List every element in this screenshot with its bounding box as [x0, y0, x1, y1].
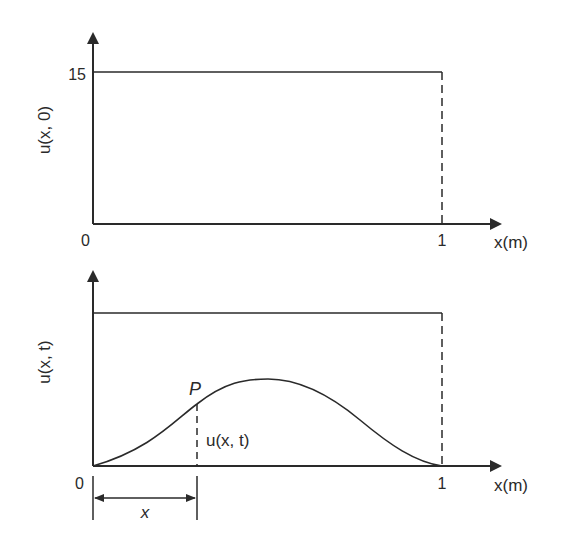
top-x-tick-1: 1: [438, 232, 447, 249]
top-y-axis-label: u(x, 0): [35, 106, 54, 154]
top-plot: 15 0 1 x(m) u(x, 0): [35, 34, 528, 252]
point-p-label: P: [189, 379, 201, 399]
top-origin-label: 0: [81, 232, 90, 249]
bottom-origin-label: 0: [75, 475, 84, 492]
bottom-y-axis-label: u(x, t): [35, 340, 54, 383]
x-dimension-indicator: x: [93, 476, 197, 522]
top-x-axis-label: x(m): [494, 233, 528, 252]
bottom-plot: P u(x, t) 0 1 x(m) u(x, t) x: [35, 272, 528, 522]
temperature-profile-curve: [93, 379, 442, 466]
bottom-x-axis-label: x(m): [494, 476, 528, 495]
bottom-x-tick-1: 1: [438, 475, 447, 492]
dimension-x-label: x: [140, 503, 150, 522]
point-p-value-label: u(x, t): [206, 431, 249, 450]
diagram-canvas: 15 0 1 x(m) u(x, 0) P u(x, t) 0 1 x(m) u…: [0, 0, 564, 550]
top-y-tick-15: 15: [68, 66, 86, 83]
